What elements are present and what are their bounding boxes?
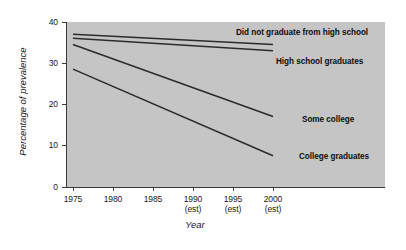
series-label-did-not-graduate: Did not graduate from high school (236, 28, 368, 37)
series-line-high-school (73, 38, 273, 50)
series-line-some-college (73, 44, 273, 116)
series-lines (0, 0, 406, 250)
series-label-high-school: High school graduates (276, 57, 363, 66)
chart-figure: 40 30 20 10 0 1975 1980 1985 1990 1995 2… (0, 0, 406, 250)
series-line-college-graduates (73, 69, 273, 156)
series-label-some-college: Some college (302, 115, 354, 124)
series-label-college-graduates: College graduates (299, 152, 369, 161)
